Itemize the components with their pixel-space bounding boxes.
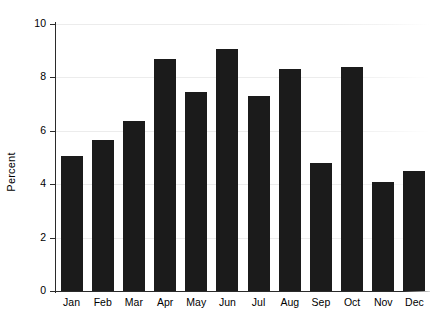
y-axis-tick-label: 4 xyxy=(0,184,46,198)
gridline xyxy=(56,131,430,132)
bar xyxy=(61,156,83,291)
y-axis-tick-label: 6 xyxy=(0,131,46,145)
plot-area xyxy=(56,24,430,291)
x-axis-line xyxy=(55,291,430,292)
y-axis-title: Percent xyxy=(0,0,22,326)
bar xyxy=(403,171,425,291)
bar xyxy=(92,140,114,291)
bar xyxy=(154,59,176,291)
bar xyxy=(341,67,363,291)
y-axis-tick xyxy=(50,24,55,25)
y-axis-tick xyxy=(50,291,55,292)
y-axis-tick xyxy=(50,77,55,78)
x-axis-tick-label: Dec xyxy=(394,296,434,308)
bar xyxy=(248,96,270,291)
y-axis-tick-label-text: 4 xyxy=(0,177,46,189)
y-axis-tick xyxy=(50,238,55,239)
y-axis-tick-label: 0 xyxy=(0,291,46,305)
y-axis-tick-label-text: 10 xyxy=(0,17,46,29)
y-axis-tick-label: 8 xyxy=(0,77,46,91)
bar xyxy=(279,69,301,291)
y-axis-tick xyxy=(50,184,55,185)
y-axis-tick xyxy=(50,131,55,132)
y-axis-tick-label-text: 0 xyxy=(0,284,46,296)
y-axis-tick-label-text: 6 xyxy=(0,124,46,136)
y-axis-tick-label-text: 8 xyxy=(0,70,46,82)
bar-chart: Percent 0246810 JanFebMarAprMayJunJulAug… xyxy=(0,0,440,326)
y-axis-tick-label: 10 xyxy=(0,24,46,38)
bar xyxy=(123,121,145,291)
gridline xyxy=(56,24,430,25)
bar xyxy=(310,163,332,291)
bar xyxy=(216,49,238,291)
bar xyxy=(372,182,394,291)
gridline xyxy=(56,77,430,78)
bar xyxy=(185,92,207,291)
y-axis-tick-label: 2 xyxy=(0,238,46,252)
y-axis-tick-label-text: 2 xyxy=(0,231,46,243)
